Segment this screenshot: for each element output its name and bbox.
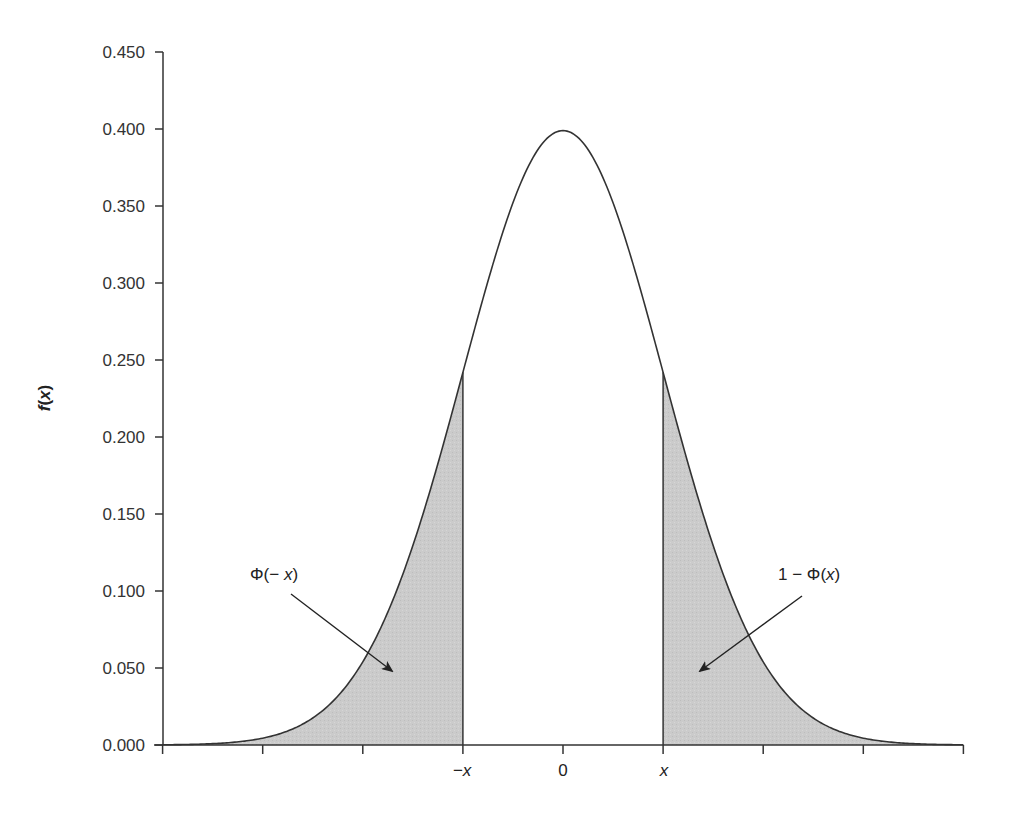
density-curve: [163, 131, 964, 745]
arrow-left-tail: [291, 594, 392, 671]
y-tick-label: 0.450: [102, 43, 145, 62]
right-tail-area: [663, 372, 963, 745]
normal-distribution-chart: 0.0000.0500.1000.1500.2000.2500.3000.350…: [0, 0, 1013, 824]
y-tick-label: 0.100: [102, 582, 145, 601]
y-tick-label: 0.250: [102, 351, 145, 370]
y-tick-label: 0.300: [102, 274, 145, 293]
x-label-neg-x: −x: [453, 761, 472, 780]
y-tick-label: 0.400: [102, 120, 145, 139]
annotation-left-tail: Φ(− x): [250, 565, 298, 584]
annotation-right-tail: 1 − Φ(x): [778, 565, 840, 584]
left-tail-area: [163, 372, 463, 745]
y-tick-label: 0.200: [102, 428, 145, 447]
x-label-zero: 0: [558, 761, 567, 780]
y-tick-label: 0.350: [102, 197, 145, 216]
x-label-x: x: [659, 761, 669, 780]
y-tick-label: 0.000: [102, 736, 145, 755]
shaded-regions: [163, 372, 964, 745]
y-axis-label: f(x): [35, 385, 54, 411]
y-ticks: 0.0000.0500.1000.1500.2000.2500.3000.350…: [102, 43, 163, 755]
y-tick-label: 0.050: [102, 659, 145, 678]
y-tick-label: 0.150: [102, 505, 145, 524]
x-ticks: [163, 745, 964, 754]
axes: 0.0000.0500.1000.1500.2000.2500.3000.350…: [102, 43, 963, 755]
